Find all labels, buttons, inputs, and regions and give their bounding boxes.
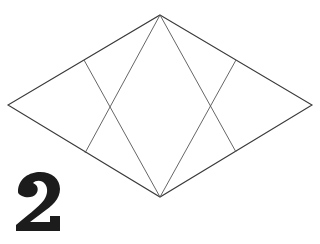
crease-left-b: [85, 15, 160, 153]
crease-left-a: [84, 60, 160, 197]
crease-right-a: [160, 60, 236, 197]
crease-right-b: [160, 15, 236, 152]
step-number-2: [14, 170, 62, 232]
